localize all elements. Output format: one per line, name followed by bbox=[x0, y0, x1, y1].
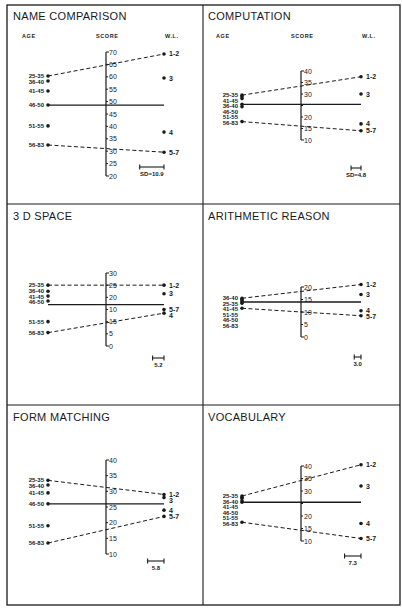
panel-computation: COMPUTATIONAGESCOREW.L.40353020151025-35… bbox=[208, 10, 376, 178]
age-group-label: 51-55 bbox=[29, 319, 45, 325]
work-level-label: 4 bbox=[169, 312, 173, 319]
work-level-label: 1-2 bbox=[366, 281, 376, 288]
age-group-label: 51-55 bbox=[29, 123, 45, 129]
tick-label: 25 bbox=[109, 160, 117, 167]
age-group-dot bbox=[46, 491, 50, 495]
age-group-dot bbox=[46, 320, 50, 324]
tick-label: 55 bbox=[109, 86, 117, 93]
tick-label: 0 bbox=[109, 343, 113, 350]
age-group-label: 46-50 bbox=[29, 299, 45, 305]
figure: NAME COMPARISONAGESCOREW.L.7065605550454… bbox=[0, 0, 402, 614]
work-level-label: 3 bbox=[169, 290, 173, 297]
panel-title: COMPUTATION bbox=[208, 10, 291, 22]
tick-label: 10 bbox=[304, 538, 312, 545]
work-level-label: 4 bbox=[169, 129, 173, 136]
tick-label: 20 bbox=[109, 173, 117, 180]
tick-label: 35 bbox=[109, 135, 117, 142]
age-group-label: 36-40 bbox=[29, 79, 45, 85]
age-group-label: 56-83 bbox=[29, 540, 45, 546]
age-group-dot bbox=[46, 483, 50, 487]
tick-label: 20 bbox=[304, 114, 312, 121]
work-level-label: 1-2 bbox=[169, 282, 179, 289]
work-level-dot bbox=[359, 293, 363, 297]
sd-label: 5.8 bbox=[152, 565, 161, 571]
tick-label: 30 bbox=[304, 91, 312, 98]
age-group-dot bbox=[240, 301, 244, 305]
work-level-label: 5-7 bbox=[366, 127, 376, 134]
work-level-dot bbox=[359, 122, 363, 126]
tick-label: 40 bbox=[304, 463, 312, 470]
work-level-dot bbox=[359, 309, 363, 313]
work-level-dot bbox=[359, 92, 363, 96]
tick-label: 25 bbox=[109, 504, 117, 511]
tick-label: 0 bbox=[304, 334, 308, 341]
work-level-label: 5-7 bbox=[366, 313, 376, 320]
age-group-label: 36-40 bbox=[29, 483, 45, 489]
tick-label: 70 bbox=[109, 49, 117, 56]
tick-label: 15 bbox=[304, 125, 312, 132]
age-group-dot bbox=[240, 97, 244, 101]
age-group-label: 56-83 bbox=[223, 521, 239, 527]
wl-header: W.L. bbox=[362, 33, 376, 39]
age-group-label: 56-83 bbox=[223, 120, 239, 126]
sd-label: SD=10.9 bbox=[140, 171, 164, 177]
age-group-label: 46-50 bbox=[29, 102, 45, 108]
work-level-label: 3 bbox=[169, 75, 173, 82]
work-level-dot bbox=[162, 130, 166, 134]
tick-label: 20 bbox=[109, 519, 117, 526]
age-group-dot bbox=[46, 289, 50, 293]
work-level-label: 4 bbox=[366, 520, 370, 527]
tick-label: 10 bbox=[109, 306, 117, 313]
panel-title: NAME COMPARISON bbox=[13, 10, 127, 22]
tick-label: 40 bbox=[304, 68, 312, 75]
age-group-label: 41-45 bbox=[29, 490, 45, 496]
tick-label: 5 bbox=[304, 321, 308, 328]
work-level-dot bbox=[162, 292, 166, 296]
age-group-label: 51-55 bbox=[29, 523, 45, 529]
age-group-dot bbox=[46, 79, 50, 83]
tick-label: 45 bbox=[109, 111, 117, 118]
tick-label: 50 bbox=[109, 98, 117, 105]
tick-label: 40 bbox=[109, 123, 117, 130]
tick-label: 35 bbox=[109, 472, 117, 479]
tick-label: 15 bbox=[109, 535, 117, 542]
age-group-label: 56-83 bbox=[29, 330, 45, 336]
panel-title: ARITHMETIC REASON bbox=[208, 210, 330, 222]
work-level-label: 3 bbox=[366, 483, 370, 490]
age-group-dot bbox=[240, 105, 244, 109]
sd-label: 3.0 bbox=[353, 361, 362, 367]
panel-arithmetic-reason: ARITHMETIC REASON2015105036-4025-3541-45… bbox=[208, 210, 376, 367]
work-level-label: 3 bbox=[366, 291, 370, 298]
tick-label: 60 bbox=[109, 73, 117, 80]
age-header: AGE bbox=[22, 33, 36, 39]
age-group-dot bbox=[46, 124, 50, 128]
work-level-dot bbox=[162, 76, 166, 80]
tick-label: 20 bbox=[304, 284, 312, 291]
work-level-dot bbox=[162, 283, 166, 287]
tick-label: 30 bbox=[109, 270, 117, 277]
age-group-label: 56-83 bbox=[29, 142, 45, 148]
sd-label: 7.3 bbox=[349, 560, 358, 566]
work-level-dot bbox=[162, 508, 166, 512]
age-group-dot bbox=[46, 502, 50, 506]
panel-title: 3 D SPACE bbox=[13, 210, 72, 222]
panel-3d-space: 3 D SPACE30252010155025-3536-4041-4546-5… bbox=[13, 210, 179, 368]
tick-label: 10 bbox=[304, 137, 312, 144]
work-level-label: 3 bbox=[366, 91, 370, 98]
panel-name-comparison: NAME COMPARISONAGESCOREW.L.7065605550454… bbox=[13, 10, 179, 180]
tick-label: 10 bbox=[109, 551, 117, 558]
score-header: SCORE bbox=[96, 33, 119, 39]
wl-header: W.L. bbox=[165, 33, 179, 39]
work-level-label: 5-7 bbox=[169, 149, 179, 156]
age-group-dot bbox=[46, 103, 50, 107]
tick-label: 40 bbox=[109, 457, 117, 464]
age-group-dot bbox=[46, 524, 50, 528]
work-level-dot bbox=[359, 484, 363, 488]
panel-title: VOCABULARY bbox=[208, 411, 286, 423]
age-group-label: 41-45 bbox=[29, 88, 45, 94]
sd-label: SD=4.8 bbox=[346, 172, 367, 178]
age-header: AGE bbox=[216, 33, 230, 39]
panel-vocabulary: VOCABULARY40353020151025-3536-4041-4546-… bbox=[208, 411, 376, 566]
age-group-label: 46-50 bbox=[29, 501, 45, 507]
work-level-label: 5-7 bbox=[169, 513, 179, 520]
